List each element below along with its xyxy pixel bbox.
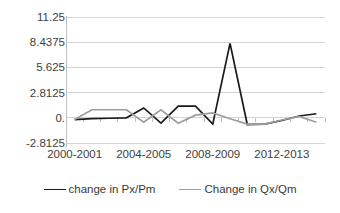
- data-series-layer: [66, 17, 325, 143]
- y-axis-tick-label: 8.4375: [30, 37, 65, 48]
- x-axis-tick-label: 2000-2001: [47, 148, 102, 160]
- legend-line-swatch: [44, 189, 66, 190]
- y-axis-tick-label: 0.: [55, 112, 65, 123]
- legend-label: change in Px/Pm: [69, 183, 156, 195]
- x-axis-tick-label: 2004-2005: [116, 148, 171, 160]
- line-chart: 11.258.43755.6252.81250.-2.8125 2000-200…: [0, 0, 340, 213]
- chart-legend: change in Px/PmChange in Qx/Qm: [0, 183, 340, 195]
- y-axis-tick-label: -2.8125: [26, 138, 65, 149]
- y-axis-tick-label: 11.25: [37, 12, 65, 23]
- data-series-line: [75, 110, 317, 124]
- legend-label: Change in Qx/Qm: [204, 183, 296, 195]
- y-axis-tick-label: 5.625: [36, 62, 65, 73]
- legend-item[interactable]: Change in Qx/Qm: [179, 183, 296, 195]
- data-series-line: [75, 43, 317, 124]
- legend-line-swatch: [179, 189, 201, 190]
- x-axis-tick-label: 2008-2009: [185, 148, 240, 160]
- plot-area: [66, 17, 325, 143]
- legend-item[interactable]: change in Px/Pm: [44, 183, 156, 195]
- x-axis-tick-label: 2012-2013: [254, 148, 309, 160]
- y-axis-tick-label: 2.8125: [30, 87, 65, 98]
